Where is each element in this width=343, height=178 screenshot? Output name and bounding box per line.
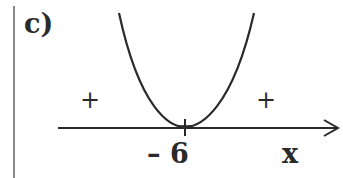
- parabola-curve: [119, 13, 254, 127]
- axis-label: x: [282, 138, 298, 169]
- root-label: – 6: [147, 138, 189, 169]
- sign-left: +: [80, 86, 100, 114]
- sign-right: +: [256, 86, 276, 114]
